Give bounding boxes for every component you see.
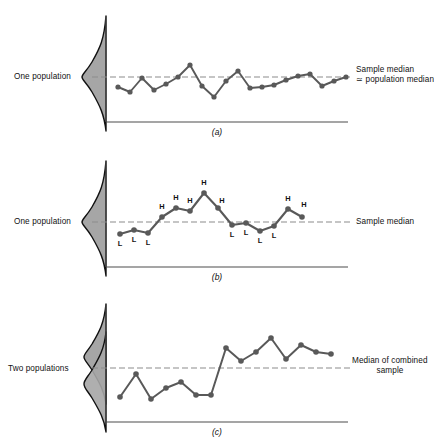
svg-text:H: H [285,194,290,203]
series-points-a [115,62,348,99]
panel-a-median-label-line1: Sample median [356,65,414,75]
svg-text:H: H [173,193,178,202]
panel-b-left-label: One population [14,217,71,227]
panel-a-left-label: One population [14,72,71,82]
svg-text:L: L [244,228,249,237]
panel-b-median-label-line1: Sample median [356,217,414,227]
svg-text:L: L [230,230,235,239]
svg-text:L: L [132,235,137,244]
panel-a-median-label-line2: ≃ population median [356,75,434,85]
panel-b-caption: (b) [0,272,434,282]
series-points-b [117,190,305,237]
figure-container: One population Sample median ≃ populatio… [0,0,434,443]
panel-c-median-label-line2: sample [352,366,428,376]
panel-c-median-label-line1: Median of combined [352,356,428,366]
svg-text:H: H [219,196,224,205]
density-curve-unimodal-b [82,161,106,276]
panel-c: Two populations Median of combined sampl… [0,292,434,435]
svg-text:L: L [272,231,277,240]
svg-text:L: L [146,238,151,247]
series-line-a [118,65,346,97]
density-curve-unimodal-a [82,16,106,131]
svg-text:L: L [118,239,123,248]
panel-a: One population Sample median ≃ populatio… [0,0,434,143]
panel-c-caption: (c) [0,427,434,437]
svg-text:H: H [187,196,192,205]
svg-text:H: H [301,200,306,209]
run-labels-b: L L L H H H H H L L L L H H [118,178,307,248]
svg-text:H: H [159,202,164,211]
panel-a-caption: (a) [0,127,434,137]
panel-c-left-label: Two populations [8,364,69,374]
svg-text:H: H [201,178,206,187]
svg-text:L: L [258,236,263,245]
panel-b: L L L H H H H H L L L L H H One populati… [0,145,434,288]
